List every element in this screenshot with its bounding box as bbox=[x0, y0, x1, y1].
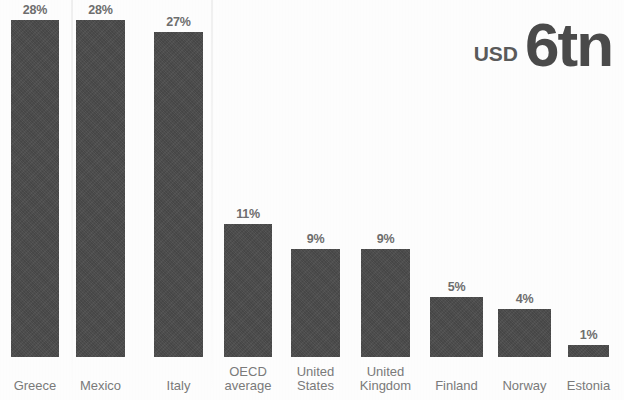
bar-value-label: 4% bbox=[498, 292, 551, 306]
bar-category-label: Estonia bbox=[559, 379, 618, 393]
bar-value-label: 11% bbox=[224, 207, 272, 221]
bar-group: 9%United States bbox=[291, 0, 340, 400]
bar-group: 9%United Kingdom bbox=[361, 0, 410, 400]
bar-category-label: United States bbox=[282, 365, 349, 393]
bar[interactable] bbox=[76, 20, 125, 357]
bar-category-label: Finland bbox=[421, 379, 492, 393]
bar[interactable] bbox=[154, 32, 203, 357]
bar-value-label: 28% bbox=[11, 3, 59, 17]
bar-group: 11%OECD average bbox=[224, 0, 272, 400]
bar[interactable] bbox=[361, 249, 410, 357]
bar-value-label: 28% bbox=[76, 3, 125, 17]
bar-chart: 28%Greece28%Mexico27%Italy11%OECD averag… bbox=[0, 0, 624, 400]
bar[interactable] bbox=[430, 297, 483, 357]
bar-category-label: Greece bbox=[2, 379, 68, 393]
bar-category-label: United Kingdom bbox=[352, 365, 419, 393]
bar-value-label: 27% bbox=[154, 15, 203, 29]
bar[interactable] bbox=[568, 345, 609, 357]
bar-value-label: 9% bbox=[291, 232, 340, 246]
bar-value-label: 9% bbox=[361, 232, 410, 246]
annotation-amount-value: 6tn bbox=[525, 18, 612, 71]
bar[interactable] bbox=[291, 249, 340, 357]
bar-value-label: 5% bbox=[430, 280, 483, 294]
bar[interactable] bbox=[498, 309, 551, 357]
annotation-currency-label: USD bbox=[474, 43, 525, 71]
bar-group: 28%Greece bbox=[11, 0, 59, 400]
bar-category-label: Mexico bbox=[67, 379, 134, 393]
bar-category-label: OECD average bbox=[215, 365, 281, 393]
usd-total-annotation: USD 6tn bbox=[474, 18, 612, 71]
bar-group: 27%Italy bbox=[154, 0, 203, 400]
bar-category-label: Norway bbox=[489, 379, 560, 393]
bar-category-label: Italy bbox=[145, 379, 212, 393]
bar[interactable] bbox=[11, 20, 59, 357]
bar[interactable] bbox=[224, 224, 272, 357]
bar-value-label: 1% bbox=[568, 328, 609, 342]
bar-group: 28%Mexico bbox=[76, 0, 125, 400]
